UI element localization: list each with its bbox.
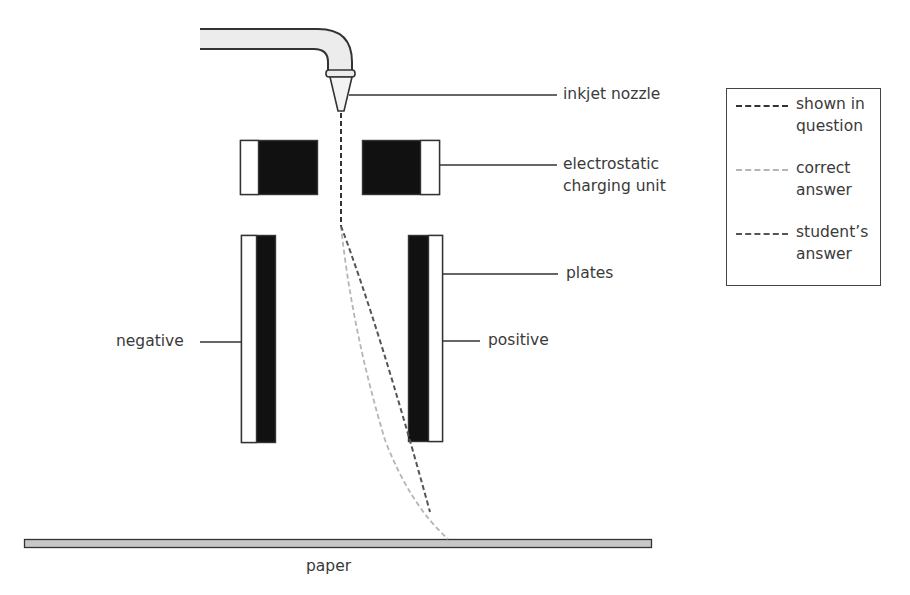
label-plates: plates [566,264,613,283]
positive-plate [409,236,443,442]
charging-unit-right [363,141,440,195]
legend-label: correct [796,158,850,178]
legend-dash-dark [736,105,788,107]
legend-dash-medium [736,233,788,235]
legend-label: answer [796,244,852,264]
paper-sheet [25,540,652,548]
ink-tube [200,29,352,70]
label-inkjet-nozzle: inkjet nozzle [563,85,660,104]
charging-unit-left [241,141,318,195]
legend-label: shown in [796,94,865,114]
label-paper: paper [306,557,351,576]
legend-label: question [796,116,863,136]
legend-dash-light [736,169,788,171]
legend-label: student’s [796,222,868,242]
legend: shown in question correct answer student… [726,88,881,286]
inkjet-nozzle [326,70,355,111]
legend-label: answer [796,180,852,200]
label-charging-unit: electrostatic charging unit [563,155,666,196]
negative-plate [242,236,276,443]
label-positive: positive [488,331,549,350]
label-charging-unit-line1: electrostatic [563,155,666,174]
label-charging-unit-line2: charging unit [563,177,666,196]
label-negative: negative [116,332,184,351]
